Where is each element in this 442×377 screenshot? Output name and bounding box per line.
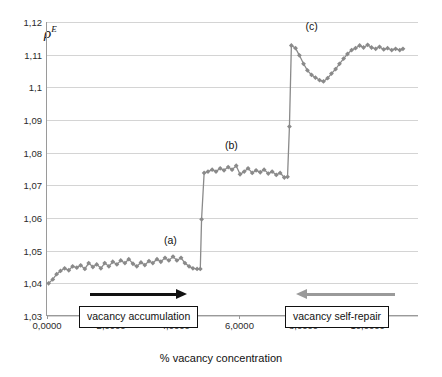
y-tick-label: 1,1 <box>29 82 42 93</box>
arrow-self-repair-line <box>307 293 395 296</box>
callout-vacancy-accumulation: vacancy accumulation <box>79 306 198 328</box>
y-tick-label: 1,09 <box>24 115 43 126</box>
y-tick-label: 1,07 <box>24 180 43 191</box>
annotation-label-c: (c) <box>305 20 317 32</box>
arrow-accumulation-head <box>176 289 187 299</box>
callout-vacancy-self-repair: vacancy self-repair <box>285 306 389 328</box>
plot-area: 1,031,041,051,061,071,081,091,11,111,12 … <box>46 22 418 316</box>
annotation-label-b: (b) <box>225 139 238 151</box>
data-series-line <box>47 22 419 316</box>
y-tick-label: 1,11 <box>24 49 42 60</box>
y-tick-label: 1,06 <box>24 213 43 224</box>
x-tick-label: 6,0000 <box>225 320 254 331</box>
y-tick-label: 1,04 <box>24 278 43 289</box>
y-tick-label: 1,08 <box>24 147 43 158</box>
annotation-label-a: (a) <box>164 234 177 246</box>
x-tick-label: 0,0000 <box>32 320 61 331</box>
y-tick-label: 1,05 <box>24 245 43 256</box>
arrow-self-repair-head <box>296 289 307 299</box>
arrow-accumulation-line <box>90 293 178 296</box>
x-axis-label: % vacancy concentration <box>0 352 442 364</box>
y-tick-label: 1,12 <box>24 17 43 28</box>
chart-figure: ρE 1,031,041,051,061,071,081,091,11,111,… <box>0 0 442 377</box>
callout-accumulation-text: vacancy accumulation <box>87 310 190 322</box>
callout-self-repair-text: vacancy self-repair <box>293 310 381 322</box>
